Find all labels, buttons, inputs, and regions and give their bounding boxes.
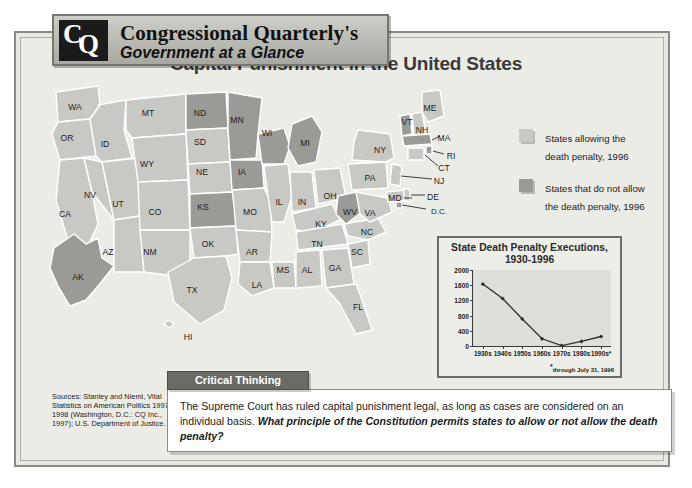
map-state-nj (390, 164, 402, 186)
chart-plot-area: 04008001200160020001930s1940s1950s1960s1… (472, 270, 611, 347)
map-label-la: LA (252, 280, 263, 290)
chart-xtick-mark (503, 346, 504, 349)
chart-xtick-mark (522, 346, 523, 349)
chart-xtick-label: 1940s (494, 350, 512, 357)
chart-xtick-mark (581, 346, 582, 349)
chart-xtick-label: 1960s (533, 350, 551, 357)
chart-ytick-mark (470, 285, 473, 286)
chart-series-line (483, 284, 601, 346)
chart-xtick-mark (562, 346, 563, 349)
map-state-fl (326, 284, 372, 334)
map-label-nc: NC (361, 227, 373, 237)
map-label-me: ME (424, 103, 437, 113)
map-label-ky: KY (315, 219, 327, 229)
legend-label-allow: States allowing the death penalty, 1996 (545, 133, 629, 162)
header-title-primary: Congressional Quarterly's (120, 21, 358, 46)
chart-ytick-label: 0 (465, 343, 469, 350)
map-leader-line-nj (401, 176, 432, 179)
sources-text: Sources: Stanley and Niemi, Vital Statis… (52, 392, 173, 428)
chart-xtick-mark (483, 346, 484, 349)
map-label-id: ID (101, 139, 110, 149)
chart-xtick-label: 1970s (553, 350, 571, 357)
map-state-wy (132, 134, 188, 182)
map-label-ma: MA (438, 133, 451, 143)
map-state-or (52, 119, 96, 160)
map-label-dc: D.C. (431, 207, 447, 216)
map-label-mi: MI (300, 138, 310, 148)
map-state-ak (50, 234, 114, 306)
map-legend: States allowing the death penalty, 1996 … (519, 128, 649, 228)
map-state-ct (408, 148, 424, 160)
chart-data-point (579, 339, 583, 343)
legend-item-allow: States allowing the death penalty, 1996 (519, 128, 649, 164)
cq-header-plaque: C Q Congressional Quarterly's Government… (52, 14, 389, 66)
chart-ytick-mark (470, 316, 473, 317)
map-state-tx (168, 256, 232, 324)
chart-data-point (599, 334, 603, 338)
map-label-ut: UT (112, 199, 124, 209)
map-label-in: IN (298, 197, 307, 207)
map-label-nv: NV (84, 190, 96, 200)
chart-xtick-label: 1990s* (591, 350, 611, 357)
map-leader-line-ri (433, 151, 444, 154)
map-label-ct: CT (438, 163, 450, 173)
map-label-nd: ND (194, 108, 206, 118)
map-label-ms: MS (277, 265, 290, 275)
critical-thinking-tab: Critical Thinking (167, 371, 309, 390)
map-label-pa: PA (365, 173, 376, 183)
map-label-il: IL (275, 197, 282, 207)
map-state-ne (188, 162, 234, 194)
critical-thinking-tab-label: Critical Thinking (168, 372, 308, 389)
chart-ytick-label: 400 (458, 327, 469, 334)
map-label-nm: NM (143, 247, 156, 257)
map-leader-line-dc (402, 205, 426, 209)
map-label-md: MD (388, 193, 401, 203)
chart-ytick-mark (470, 346, 473, 347)
chart-ytick-label: 2000 (454, 267, 469, 274)
legend-item-disallow: States that do not allow the death penal… (519, 178, 649, 214)
map-label-wi: WI (262, 128, 273, 138)
map-state-ia (230, 160, 264, 190)
map-state-ma (402, 134, 432, 146)
map-label-ri: RI (447, 151, 456, 161)
legend-label-disallow: States that do not allow the death penal… (545, 183, 645, 212)
chart-ytick-label: 1600 (454, 282, 469, 289)
map-label-ak: AK (72, 272, 84, 282)
map-label-fl: FL (353, 302, 363, 312)
map-label-or: OR (61, 133, 74, 143)
map-state-ny (352, 130, 394, 162)
header-title-secondary: Government at a Glance (120, 44, 304, 62)
chart-title-line2: 1930-1996 (505, 254, 554, 265)
map-label-wy: WY (140, 159, 154, 169)
map-state-ri (426, 146, 432, 154)
map-label-wv: WV (343, 207, 357, 217)
map-label-ks: KS (197, 202, 209, 212)
chart-xtick-label: 1950s (513, 350, 531, 357)
legend-swatch-allow (519, 129, 533, 142)
map-state-co (138, 180, 190, 230)
map-label-co: CO (149, 207, 162, 217)
chart-footnote-text: through July 31, 1996 (553, 367, 614, 373)
map-label-de: DE (427, 192, 439, 202)
map-label-az: AZ (103, 247, 114, 257)
chart-footnote: *through July 31, 1996 (550, 363, 614, 373)
map-state-mt (126, 94, 186, 138)
map-label-va: VA (365, 208, 376, 218)
chart-title-line1: State Death Penalty Executions, (451, 242, 608, 253)
map-state-hi (164, 320, 174, 328)
cq-logo-letter-q: Q (78, 31, 99, 58)
map-label-vt: VT (402, 117, 414, 127)
cq-logo: C Q (59, 20, 108, 61)
map-label-mn: MN (230, 115, 243, 125)
map-label-ga: GA (329, 263, 342, 273)
map-label-ny: NY (374, 145, 386, 155)
map-label-mt: MT (142, 108, 155, 118)
map-state-ar (236, 230, 272, 262)
chart-xtick-label: 1980s (573, 350, 591, 357)
map-label-mo: MO (243, 207, 257, 217)
map-label-tx: TX (187, 285, 198, 295)
map-label-ca: CA (59, 209, 71, 219)
map-label-ar: AR (246, 247, 258, 257)
map-label-ok: OK (202, 239, 215, 249)
critical-thinking-text: The Supreme Court has ruled capital puni… (180, 399, 659, 444)
